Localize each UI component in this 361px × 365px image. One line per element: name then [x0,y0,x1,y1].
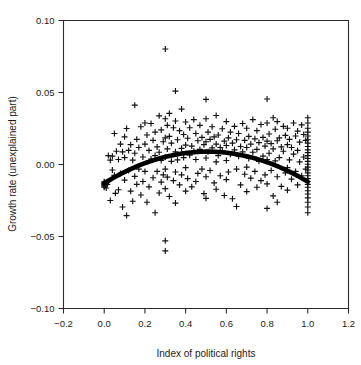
scatter-marker [297,159,303,165]
scatter-marker [187,125,193,131]
scatter-marker [183,188,189,194]
scatter-marker [172,88,178,94]
scatter-marker [144,199,150,205]
scatter-marker [195,138,201,144]
scatter-marker [236,131,242,137]
scatter-marker [181,132,187,138]
scatter-marker [199,166,205,172]
scatter-marker [274,199,280,205]
scatter-marker [111,131,117,137]
scatter-marker [229,196,235,202]
y-tick-label: −0.10 [30,303,54,314]
scatter-marker [183,142,189,148]
x-tick-label: 0.2 [138,318,151,329]
scatter-marker [128,188,134,194]
scatter-marker [168,158,174,164]
scatter-marker [191,117,197,123]
scatter-marker [107,198,113,204]
scatter-marker [219,126,225,132]
scatter-marker [148,120,154,126]
scatter-marker [213,186,219,192]
scatter-marker [134,136,140,142]
x-axis-title: Index of political rights [157,348,256,359]
scatter-marker [193,156,199,162]
scatter-marker [286,157,292,163]
scatter-marker [305,204,311,210]
scatter-marker [207,168,213,174]
scatter-marker [291,151,297,157]
scatter-marker [270,115,276,121]
y-tick-label: 0.10 [36,15,55,26]
scatter-marker [284,187,290,193]
scatter-marker [244,125,250,131]
scatter-marker [152,129,158,135]
plot-canvas: −0.20.00.20.40.60.81.01.2 −0.10−0.050.00… [0,0,361,365]
scatter-marker [115,187,121,193]
scatter-marker [254,128,260,134]
scatter-marker [130,157,136,163]
scatter-marker [179,172,185,178]
scatter-marker [172,118,178,124]
scatter-marker [244,145,250,151]
scatter-marker [109,167,115,173]
scatter-marker [120,149,126,155]
scatter-marker [150,137,156,143]
scatter-marker [274,174,280,180]
scatter-marker [289,145,295,151]
scatter-marker [272,126,278,132]
x-tick-label: 0.8 [260,318,273,329]
scatter-marker [199,134,205,140]
scatter-marker [209,124,215,130]
scatter-marker [250,117,256,123]
scatter-marker [156,113,162,119]
scatter-marker [189,184,195,190]
scatter-marker [189,143,195,149]
scatter-marker [225,135,231,141]
scatter-marker [122,177,128,183]
scatter-marker [223,177,229,183]
scatter-marker [126,147,132,153]
y-axis-tick-labels: −0.10−0.050.000.050.10 [30,15,54,314]
scatter-marker [264,120,270,126]
scatter-marker [305,115,311,121]
scatter-marker [217,173,223,179]
scatter-marker [260,134,266,140]
scatter-marker [284,142,290,148]
x-tick-label: 1.2 [342,318,355,329]
scatter-marker [244,189,250,195]
scatter-marker [122,134,128,140]
scatter-marker [223,157,229,163]
scatter-marker [213,159,219,165]
scatter-marker [134,181,140,187]
scatter-marker [175,137,181,143]
scatter-marker [122,155,128,161]
scatter-marker [185,176,191,182]
scatter-marker [221,192,227,198]
scatter-marker [130,198,136,204]
scatter-marker [112,190,118,196]
scatter-marker [266,150,272,156]
scatter-marker [142,168,148,174]
scatter-marker [291,120,297,126]
scatter-marker [179,106,185,112]
scatter-marker [132,150,138,156]
scatter-marker [179,145,185,151]
scatter-marker [262,172,268,178]
y-axis-tick-marks [59,21,64,309]
scatter-marker [138,192,144,198]
scatter-marker [152,210,158,216]
scatter-marker [286,136,292,142]
scatter-marker [223,119,229,125]
scatter-marker [305,120,311,126]
x-tick-label: 0.0 [98,318,111,329]
scatter-marker [172,169,178,175]
scatter-marker [183,119,189,125]
scatter-marker [305,210,311,216]
scatter-marker [238,144,244,150]
scatter-marker [118,141,124,147]
scatter-marker [264,96,270,102]
scatter-marker [256,140,262,146]
scatter-marker [203,174,209,180]
scatter-marker [258,121,264,127]
scatter-marker [162,166,168,172]
